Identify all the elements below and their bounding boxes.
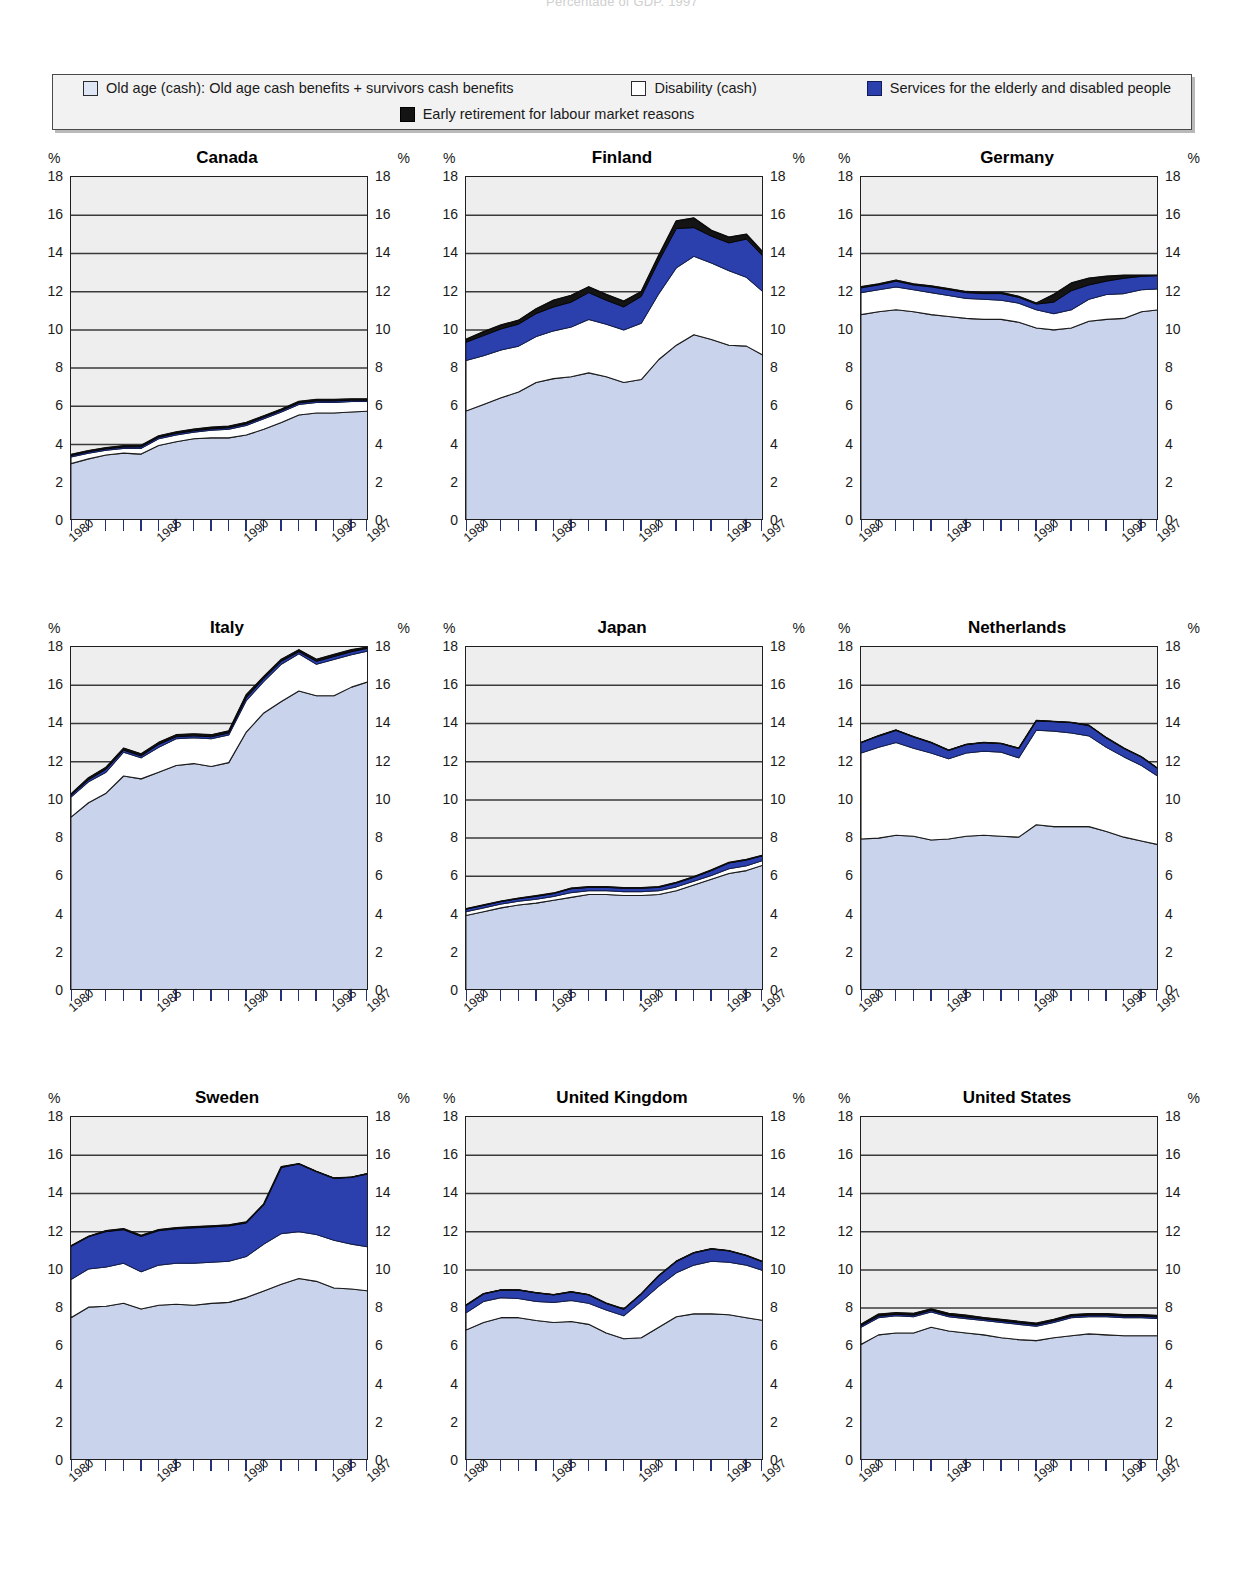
axis-unit-left: %	[443, 150, 455, 166]
y-axis-label-right: 8	[770, 360, 778, 374]
y-axis-label-right: 16	[770, 677, 786, 691]
y-axis-label-left: 10	[442, 1262, 458, 1276]
panel-title: Japan	[425, 618, 819, 638]
y-axis-label-left: 18	[442, 1109, 458, 1123]
x-axis-label: 1980	[66, 986, 96, 1015]
y-axis-label-left: 14	[47, 715, 63, 729]
chart-panel-finland: Finland%%0022446688101012121414161618181…	[425, 140, 819, 610]
y-axis-label-right: 6	[375, 398, 383, 412]
y-axis-label-right: 6	[375, 1338, 383, 1352]
old-age-area	[861, 825, 1158, 990]
y-axis-label-right: 2	[1165, 1415, 1173, 1429]
y-axis-label-right: 18	[1165, 1109, 1181, 1123]
y-axis-label-left: 8	[845, 830, 853, 844]
y-axis-label-left: 8	[845, 360, 853, 374]
y-axis-label-left: 16	[442, 207, 458, 221]
y-axis-label-left: 8	[55, 830, 63, 844]
x-axis-label: 1990	[241, 1456, 271, 1485]
y-axis-label-left: 6	[845, 1338, 853, 1352]
chart-panel-germany: Germany%%0022446688101012121414161618181…	[820, 140, 1214, 610]
legend-item-services: Services for the elderly and disabled pe…	[867, 80, 1171, 96]
y-axis-label-left: 14	[47, 245, 63, 259]
x-axis-labels: 19801985199019951997	[465, 520, 763, 560]
x-axis-label: 1990	[241, 516, 271, 545]
y-axis-label-right: 2	[770, 945, 778, 959]
x-axis-label: 1997	[364, 986, 394, 1015]
y-axis-label-left: 8	[450, 1300, 458, 1314]
plot-area	[70, 176, 368, 520]
y-axis-label-left: 12	[47, 754, 63, 768]
y-axis-label-right: 6	[1165, 868, 1173, 882]
old-age-area	[861, 1327, 1158, 1460]
y-axis-label-right: 2	[1165, 475, 1173, 489]
y-axis-label-right: 6	[770, 868, 778, 882]
x-axis-label: 1997	[759, 516, 789, 545]
x-axis-label: 1997	[759, 1456, 789, 1485]
panel-title: Sweden	[30, 1088, 424, 1108]
axis-unit-right: %	[398, 1090, 410, 1106]
y-axis-label-left: 6	[845, 398, 853, 412]
y-axis-label-right: 12	[375, 284, 391, 298]
y-axis-label-left: 4	[845, 437, 853, 451]
y-axis-label-right: 12	[770, 284, 786, 298]
plot-area	[70, 1116, 368, 1460]
axis-unit-left: %	[48, 150, 60, 166]
x-axis-label: 1980	[856, 516, 886, 545]
y-axis-label-left: 2	[450, 1415, 458, 1429]
y-axis-label-left: 4	[450, 437, 458, 451]
y-axis-label-right: 2	[770, 1415, 778, 1429]
x-axis-label: 1985	[944, 986, 974, 1015]
x-axis-label: 1980	[461, 1456, 491, 1485]
plot-area-wrapper: 0022446688101012121414161618181980198519…	[465, 646, 763, 990]
y-axis-label-left: 2	[845, 475, 853, 489]
y-axis-label-left: 2	[450, 945, 458, 959]
y-axis-label-right: 10	[770, 792, 786, 806]
axis-unit-left: %	[443, 620, 455, 636]
plot-area	[70, 646, 368, 990]
chart-panel-canada: Canada%%00224466881010121214141616181819…	[30, 140, 424, 610]
x-axis-label: 1980	[461, 986, 491, 1015]
axis-unit-right: %	[398, 150, 410, 166]
y-axis-label-right: 10	[1165, 322, 1181, 336]
y-axis-label-left: 10	[47, 322, 63, 336]
x-axis-label: 1990	[241, 986, 271, 1015]
x-axis-labels: 19801985199019951997	[465, 990, 763, 1030]
y-axis-label-right: 2	[375, 945, 383, 959]
panel-title: United States	[820, 1088, 1214, 1108]
x-axis-label: 1995	[329, 1456, 359, 1485]
y-axis-label-right: 2	[770, 475, 778, 489]
x-axis-label: 1985	[549, 986, 579, 1015]
plot-area	[860, 176, 1158, 520]
x-axis-label: 1990	[636, 516, 666, 545]
y-axis-label-right: 4	[770, 907, 778, 921]
x-axis-labels: 19801985199019951997	[860, 520, 1158, 560]
plot-area-wrapper: 0022446688101012121414161618181980198519…	[860, 176, 1158, 520]
x-axis-label: 1980	[461, 516, 491, 545]
y-axis-label-left: 8	[845, 1300, 853, 1314]
early-retirement-swatch-icon	[400, 107, 415, 122]
y-axis-label-left: 12	[837, 284, 853, 298]
y-axis-label-right: 4	[1165, 1377, 1173, 1391]
axis-unit-left: %	[838, 150, 850, 166]
y-axis-label-left: 2	[55, 475, 63, 489]
y-axis-label-left: 18	[47, 639, 63, 653]
x-axis-label: 1980	[66, 1456, 96, 1485]
x-axis-label: 1990	[636, 986, 666, 1015]
y-axis-label-right: 18	[375, 1109, 391, 1123]
y-axis-label-left: 8	[55, 360, 63, 374]
plot-area-wrapper: 0022446688101012121414161618181980198519…	[70, 646, 368, 990]
axis-unit-right: %	[793, 1090, 805, 1106]
y-axis-label-right: 16	[770, 207, 786, 221]
y-axis-label-right: 16	[1165, 207, 1181, 221]
y-axis-label-left: 14	[442, 715, 458, 729]
legend-label-disability: Disability (cash)	[654, 80, 756, 96]
y-axis-label-left: 4	[450, 1377, 458, 1391]
y-axis-label-right: 10	[770, 1262, 786, 1276]
y-axis-label-left: 0	[845, 513, 853, 527]
x-axis-label: 1995	[724, 516, 754, 545]
y-axis-label-right: 4	[375, 907, 383, 921]
services-swatch-icon	[867, 81, 882, 96]
x-axis-labels: 19801985199019951997	[860, 1460, 1158, 1500]
y-axis-label-right: 18	[1165, 169, 1181, 183]
y-axis-label-left: 2	[450, 475, 458, 489]
